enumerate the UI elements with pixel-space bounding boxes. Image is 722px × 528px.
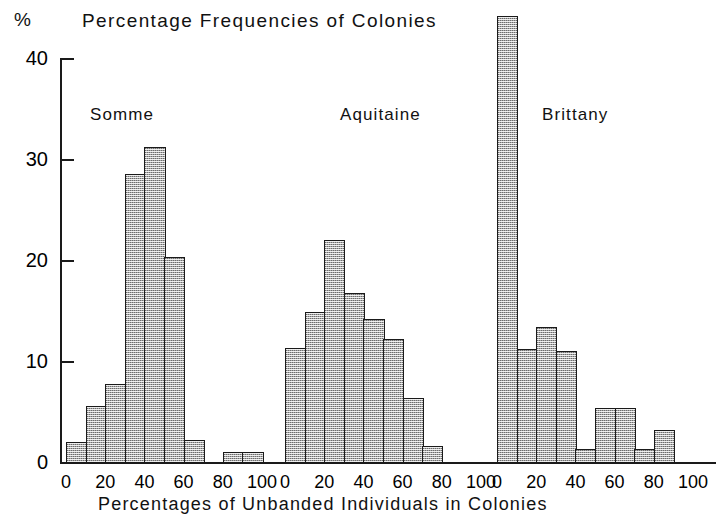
x-tick-label: 0 bbox=[280, 472, 290, 493]
bar bbox=[497, 16, 518, 463]
y-tick bbox=[62, 260, 74, 262]
y-tick-label-10: 10 bbox=[4, 350, 48, 373]
bar bbox=[556, 351, 577, 463]
bar bbox=[403, 398, 424, 463]
plot-area: 010203040Somme020406080100Aquitaine02040… bbox=[0, 0, 722, 528]
x-tick-label: 80 bbox=[644, 472, 664, 493]
bar bbox=[125, 174, 146, 463]
bar bbox=[242, 452, 263, 463]
bar bbox=[324, 240, 345, 463]
y-tick bbox=[62, 58, 74, 60]
bar bbox=[285, 348, 306, 463]
bar bbox=[66, 442, 87, 463]
panel-label-brittany: Brittany bbox=[542, 105, 608, 125]
bar bbox=[164, 257, 185, 463]
bar bbox=[634, 449, 655, 463]
bar bbox=[305, 312, 326, 463]
x-tick-label: 100 bbox=[247, 472, 277, 493]
panel-label-aquitaine: Aquitaine bbox=[340, 105, 421, 125]
bar bbox=[344, 293, 365, 463]
x-tick-label: 20 bbox=[526, 472, 546, 493]
bar bbox=[383, 339, 404, 463]
y-tick-label-0: 0 bbox=[4, 451, 48, 474]
bar bbox=[536, 327, 557, 463]
x-tick-label: 80 bbox=[432, 472, 452, 493]
x-tick-label: 60 bbox=[605, 472, 625, 493]
bar bbox=[654, 430, 675, 463]
x-tick-label: 60 bbox=[393, 472, 413, 493]
y-tick bbox=[62, 361, 74, 363]
x-tick-label: 0 bbox=[492, 472, 502, 493]
bar bbox=[144, 147, 165, 463]
bar bbox=[223, 452, 244, 463]
x-tick-label: 40 bbox=[353, 472, 373, 493]
y-tick-label-20: 20 bbox=[4, 249, 48, 272]
bar bbox=[184, 440, 205, 463]
x-tick-label: 40 bbox=[565, 472, 585, 493]
x-tick-label: 20 bbox=[314, 472, 334, 493]
x-tick-label: 80 bbox=[213, 472, 233, 493]
y-tick-label-30: 30 bbox=[4, 148, 48, 171]
bar bbox=[86, 406, 107, 463]
y-tick-label-40: 40 bbox=[4, 47, 48, 70]
bar bbox=[517, 349, 538, 463]
bar bbox=[595, 408, 616, 463]
bar bbox=[615, 408, 636, 463]
bar bbox=[422, 446, 443, 463]
x-tick-label: 40 bbox=[134, 472, 154, 493]
chart-figure: % Percentage Frequencies of Colonies Per… bbox=[0, 0, 722, 528]
bar bbox=[105, 384, 126, 463]
x-tick-label: 20 bbox=[95, 472, 115, 493]
bar bbox=[575, 449, 596, 463]
bar bbox=[363, 319, 384, 463]
panel-label-somme: Somme bbox=[90, 105, 154, 125]
y-tick bbox=[62, 159, 74, 161]
x-tick-label: 0 bbox=[61, 472, 71, 493]
x-tick-label: 60 bbox=[174, 472, 194, 493]
x-tick-label: 100 bbox=[678, 472, 708, 493]
